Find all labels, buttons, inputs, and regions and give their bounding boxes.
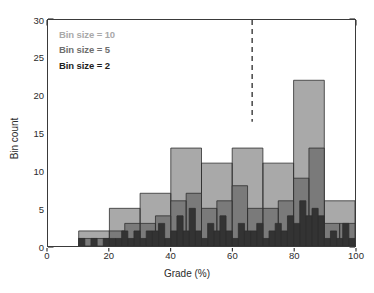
legend-entry-bin2: Bin size = 2	[59, 58, 115, 73]
x-tick-label: 20	[104, 250, 115, 261]
y-axis-title: Bin count	[9, 89, 20, 189]
x-tick-label: 100	[348, 250, 364, 261]
legend: Bin size = 10 Bin size = 5 Bin size = 2	[59, 27, 115, 73]
legend-entry-bin10: Bin size = 10	[59, 27, 115, 42]
y-axis-tick-labels: 0 5 10 15 20 25 30	[0, 0, 44, 293]
y-tick-label: 25	[4, 52, 44, 63]
y-tick-label: 30	[4, 15, 44, 26]
y-tick-label: 5	[4, 204, 44, 215]
y-tick-label: 0	[4, 242, 44, 253]
legend-entry-bin5: Bin size = 5	[59, 42, 115, 57]
x-tick-label: 0	[44, 250, 49, 261]
plot-area: Bin size = 10 Bin size = 5 Bin size = 2	[47, 19, 356, 247]
histogram-figure: 0 5 10 15 20 25 30 0 20 40 60 80 100 Bin…	[0, 0, 374, 293]
x-tick-label: 60	[227, 250, 238, 261]
x-tick-label: 40	[165, 250, 176, 261]
x-axis-title: Grade (%)	[0, 268, 374, 279]
x-tick-label: 80	[289, 250, 300, 261]
